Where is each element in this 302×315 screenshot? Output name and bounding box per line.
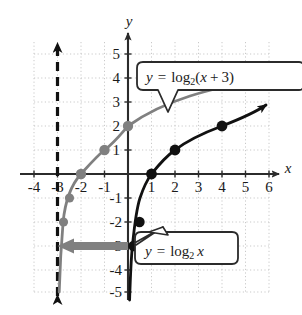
x-tick-label-1: 1: [148, 179, 156, 195]
y-tick-label--5: -5: [110, 284, 123, 300]
x-tick-label-3: 3: [195, 179, 203, 195]
y-tick-label-4: 4: [113, 70, 121, 86]
y-tick-label-1: 1: [113, 142, 121, 158]
data-point-gray: [65, 193, 74, 202]
logarithm-graph-figure: -4 -3 -2 -1 1 2 3 4 5 6 5 4 3 2 1 -1 -2 …: [0, 0, 302, 315]
x-tick-label-4: 4: [218, 179, 226, 195]
y-tick-label--2: -2: [110, 214, 123, 230]
x-axis-label: x: [284, 160, 292, 176]
y-tick-label--4: -4: [110, 262, 123, 278]
y-axis-label: y: [124, 13, 133, 29]
data-point-gray: [76, 169, 86, 179]
data-point-gray: [99, 145, 109, 155]
data-point-black: [170, 145, 181, 156]
y-tick-label--1: -1: [110, 190, 123, 206]
data-point-gray: [59, 217, 68, 226]
data-point-black: [134, 217, 144, 227]
data-point-gray: [123, 121, 133, 131]
curve-log2-x: [128, 105, 266, 300]
callout-log2-x[interactable]: y=log2x: [135, 227, 239, 264]
y-tick-label-5: 5: [113, 46, 121, 62]
x-tick-label--4: -4: [28, 179, 41, 195]
x-tick-label-2: 2: [171, 179, 179, 195]
x-tick-label-5: 5: [242, 179, 250, 195]
data-point-black: [217, 121, 228, 132]
x-tick-label-6: 6: [265, 179, 273, 195]
plot-canvas: -4 -3 -2 -1 1 2 3 4 5 6 5 4 3 2 1 -1 -2 …: [0, 0, 302, 315]
data-point-black: [146, 169, 157, 180]
y-tick-label-3: 3: [113, 94, 121, 110]
y-tick-label-2: 2: [113, 118, 121, 134]
callout-log2-x-plus-3[interactable]: y=log2(x+3): [137, 62, 302, 112]
